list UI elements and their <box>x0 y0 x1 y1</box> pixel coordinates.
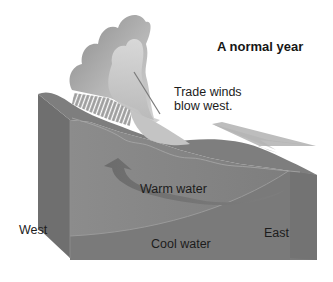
east-label: East <box>264 226 289 240</box>
west-label: West <box>19 223 47 237</box>
trade-winds-label-line1: Trade winds <box>174 85 242 99</box>
cool-water-label: Cool water <box>151 237 211 251</box>
warm-water-label: Warm water <box>140 182 207 196</box>
diagram-title: A normal year <box>217 40 303 54</box>
trade-winds-label-line2: blow west. <box>174 99 232 113</box>
